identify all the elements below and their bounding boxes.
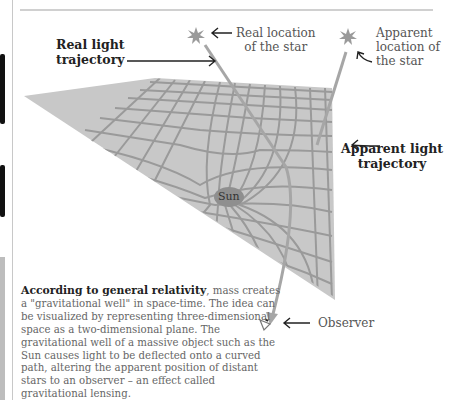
label-sun: Sun (218, 190, 240, 203)
label-observer: Observer (318, 316, 374, 330)
label-real-location: Real location of the star (236, 26, 316, 54)
star-apparent-icon (339, 28, 357, 45)
caption-body: mass creates a "gravitational well" in s… (21, 285, 280, 399)
label-apparent-location: Apparent location of the star (376, 26, 440, 68)
star-real-icon (187, 27, 205, 44)
caption-paragraph: According to general relativity, mass cr… (21, 285, 281, 401)
label-real-light-trajectory: Real light trajectory (56, 37, 125, 67)
label-line: Real location (236, 26, 316, 40)
label-line: of the star (236, 40, 316, 54)
label-apparent-light-trajectory: Apparent light trajectory (341, 141, 443, 171)
label-line: Apparent light (341, 141, 443, 156)
caption-lead: According to general relativity (21, 284, 206, 297)
arrow-real-trajectory (127, 56, 215, 66)
arrow-apparent-location (357, 52, 372, 62)
label-line: Apparent (376, 26, 440, 40)
arrow-observer (284, 318, 310, 328)
caption-lead-punct: , (206, 285, 209, 296)
label-line: trajectory (56, 52, 125, 67)
label-line: the star (376, 54, 440, 68)
label-line: Real light (56, 37, 125, 52)
arrow-real-location (212, 28, 232, 38)
label-line: trajectory (341, 156, 443, 171)
label-line: location of (376, 40, 440, 54)
